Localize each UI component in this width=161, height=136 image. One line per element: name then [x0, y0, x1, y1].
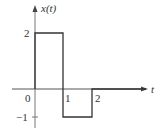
signal-plot: x(t) t 0 1 2 2 −1 — [0, 0, 161, 136]
xtick-label-0: 0 — [25, 92, 31, 104]
plot-canvas: x(t) t 0 1 2 2 −1 — [0, 0, 161, 136]
xtick-label-2: 2 — [95, 92, 101, 104]
ytick-label-2: 2 — [24, 27, 30, 39]
y-axis-arrow-icon — [33, 5, 38, 12]
y-axis-label: x(t) — [40, 2, 57, 15]
xtick-label-1: 1 — [65, 92, 71, 104]
x-axis-label: t — [151, 83, 155, 95]
signal-trace — [35, 33, 146, 117]
ytick-label-neg1: −1 — [16, 111, 28, 123]
